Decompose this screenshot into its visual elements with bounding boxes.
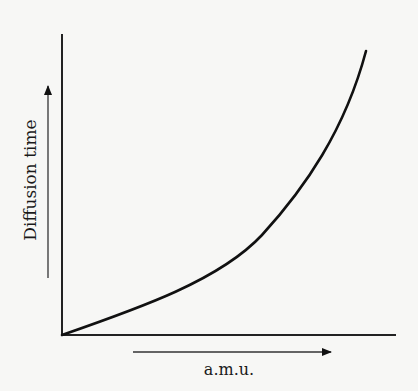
- y-axis-label: Diffusion time: [20, 119, 40, 240]
- x-axis-label: a.m.u.: [204, 360, 254, 379]
- diffusion-time-chart: Diffusion time a.m.u.: [0, 0, 418, 391]
- diffusion-curve: [62, 51, 366, 335]
